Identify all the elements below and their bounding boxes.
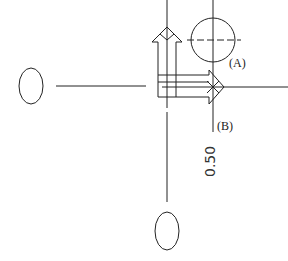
bottom-oval — [155, 212, 179, 250]
dimension-label: 0.50 — [202, 146, 218, 177]
label-b: (B) — [217, 119, 233, 133]
technical-diagram: (A) (B) 0.50 — [0, 0, 288, 261]
label-a: (A) — [229, 56, 246, 70]
left-oval — [19, 68, 43, 104]
